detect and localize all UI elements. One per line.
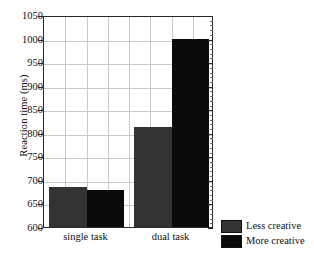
y-axis-minor-tick	[210, 124, 213, 125]
legend-item: Less creative	[221, 219, 305, 233]
y-axis-tick-mark-right	[208, 134, 213, 135]
y-axis-minor-tick	[210, 25, 213, 26]
y-axis-minor-tick	[210, 190, 213, 191]
bar	[49, 187, 87, 227]
legend-label: More creative	[246, 236, 305, 247]
bar	[172, 39, 210, 227]
y-axis-minor-tick	[210, 195, 213, 196]
y-axis-minor-tick	[210, 96, 213, 97]
y-axis-tick-mark	[38, 87, 43, 88]
legend-label: Less creative	[246, 221, 301, 232]
y-axis-tick-label: 700	[3, 176, 43, 187]
y-axis-minor-tick	[210, 77, 213, 78]
y-axis-tick-label: 1000	[3, 34, 43, 45]
y-axis-tick-label: 1050	[3, 11, 43, 22]
y-axis-tick-mark-right	[208, 110, 213, 111]
y-axis-tick-label: 800	[3, 129, 43, 140]
y-axis-tick-label: 850	[3, 105, 43, 116]
y-axis-minor-tick	[210, 58, 213, 59]
y-axis-minor-tick	[210, 200, 213, 201]
y-axis-minor-tick	[210, 223, 213, 224]
chart-legend: Less creativeMore creative	[221, 219, 305, 248]
y-axis-minor-tick	[210, 49, 213, 50]
legend-item: More creative	[221, 234, 305, 248]
y-axis-minor-tick	[210, 162, 213, 163]
y-axis-tick-label: 650	[3, 199, 43, 210]
y-axis-tick-mark	[38, 63, 43, 64]
y-axis-minor-tick	[210, 91, 213, 92]
bar	[87, 190, 125, 227]
y-axis-minor-tick	[210, 209, 213, 210]
y-axis-tick-mark	[38, 157, 43, 158]
y-axis-minor-tick	[210, 219, 213, 220]
legend-color-swatch	[221, 220, 242, 233]
y-axis-minor-tick	[210, 129, 213, 130]
y-axis-tick-mark-right	[208, 16, 213, 17]
bar	[134, 127, 172, 227]
y-axis-minor-tick	[210, 186, 213, 187]
y-axis-tick-mark-right	[208, 157, 213, 158]
y-axis-minor-tick	[210, 73, 213, 74]
y-axis-tick-mark	[38, 228, 43, 229]
y-axis-minor-tick	[210, 171, 213, 172]
x-axis-tick-label: single task	[63, 231, 108, 242]
y-axis-tick-mark-right	[208, 40, 213, 41]
y-axis-tick-mark	[38, 40, 43, 41]
y-axis-tick-label: 900	[3, 81, 43, 92]
y-axis-tick-label: 600	[3, 223, 43, 234]
y-axis-minor-tick	[210, 35, 213, 36]
y-axis-tick-mark-right	[208, 63, 213, 64]
y-axis-tick-mark	[38, 16, 43, 17]
y-axis-minor-tick	[210, 153, 213, 154]
legend-color-swatch	[221, 235, 242, 248]
bar-chart-figure: Reaction time (ms) 600650700750800850900…	[0, 0, 314, 259]
y-axis-minor-tick	[210, 148, 213, 149]
y-axis-minor-tick	[210, 120, 213, 121]
y-axis-tick-mark	[38, 134, 43, 135]
y-axis-minor-tick	[210, 138, 213, 139]
y-axis-tick-mark	[38, 110, 43, 111]
y-axis-tick-mark	[38, 181, 43, 182]
plot-area	[43, 16, 213, 228]
y-axis-minor-tick	[210, 167, 213, 168]
x-axis-tick-label: dual task	[152, 231, 190, 242]
y-axis-minor-tick	[210, 44, 213, 45]
y-axis-tick-label: 750	[3, 152, 43, 163]
bars-layer	[44, 17, 212, 227]
y-axis-tick-mark-right	[208, 228, 213, 229]
y-axis-tick-label: 950	[3, 58, 43, 69]
y-axis-minor-tick	[210, 30, 213, 31]
y-axis-minor-tick	[210, 176, 213, 177]
y-axis-minor-tick	[210, 106, 213, 107]
y-axis-tick-mark-right	[208, 87, 213, 88]
y-axis-minor-tick	[210, 115, 213, 116]
y-axis-tick-mark	[38, 204, 43, 205]
y-axis-tick-mark-right	[208, 181, 213, 182]
y-axis-minor-tick	[210, 214, 213, 215]
y-axis-tick-mark-right	[208, 204, 213, 205]
y-axis-minor-tick	[210, 21, 213, 22]
y-axis-minor-tick	[210, 143, 213, 144]
y-axis-minor-tick	[210, 101, 213, 102]
y-axis-minor-tick	[210, 82, 213, 83]
y-axis-minor-tick	[210, 68, 213, 69]
y-axis-minor-tick	[210, 54, 213, 55]
